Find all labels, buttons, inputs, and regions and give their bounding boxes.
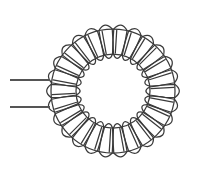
- toroid-svg-canvas: [0, 0, 203, 178]
- toroidal-inductor-diagram: [0, 0, 203, 178]
